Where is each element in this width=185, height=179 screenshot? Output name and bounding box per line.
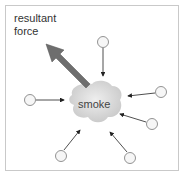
label-line-2: force bbox=[14, 25, 74, 38]
diagram: resultant force smoke bbox=[0, 0, 185, 179]
resultant-force-label: resultant force bbox=[14, 12, 74, 38]
resultant-force-arrow bbox=[46, 44, 90, 88]
label-line-1: resultant bbox=[14, 12, 74, 25]
smoke-label: smoke bbox=[78, 98, 110, 110]
